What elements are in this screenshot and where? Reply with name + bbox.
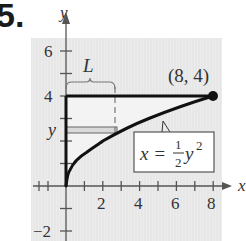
equation-denominator: 2 [175, 155, 182, 170]
y-tick-neg2: −2 [33, 222, 51, 241]
x-tick-4: 4 [134, 194, 143, 213]
y-tick-4: 4 [44, 87, 53, 106]
representative-strip [66, 127, 117, 133]
x-tick-2: 2 [97, 194, 106, 213]
equation-numerator: 1 [175, 137, 182, 152]
equation-variable: y [183, 143, 194, 164]
point-label: (8, 4) [168, 65, 209, 87]
x-tick-6: 6 [171, 194, 180, 213]
y-axis-label: y [58, 3, 68, 22]
endpoint-8-4 [208, 91, 218, 101]
x-axis-arrow-icon [222, 182, 232, 190]
equation-lhs: x = [139, 143, 166, 164]
brace-label-L: L [82, 55, 94, 76]
equation-exponent: 2 [196, 138, 203, 153]
strip-label-y: y [46, 120, 56, 140]
x-axis-label: x [237, 176, 246, 195]
x-tick-8: 8 [207, 194, 216, 213]
y-tick-6: 6 [44, 42, 53, 61]
graph: x y 2 4 6 8 6 4 −2 L y (8, 4) x = 1 2 y [0, 0, 246, 241]
